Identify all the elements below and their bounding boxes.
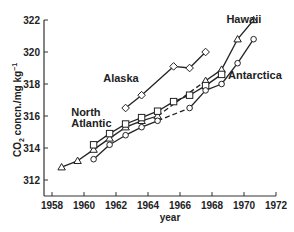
series-markers bbox=[58, 16, 257, 170]
x-tick-label: 1962 bbox=[105, 200, 128, 211]
square-marker bbox=[186, 92, 192, 98]
square-marker bbox=[218, 71, 224, 77]
square-marker bbox=[122, 121, 128, 127]
series-annotation: North bbox=[71, 106, 101, 118]
x-tick-label: 1970 bbox=[233, 200, 256, 211]
circle-marker bbox=[251, 36, 257, 42]
circle-marker bbox=[235, 60, 241, 66]
circle-marker bbox=[123, 132, 129, 138]
circle-marker bbox=[219, 81, 225, 87]
y-tick-label: 314 bbox=[23, 143, 40, 154]
co2-line-chart: 3123143163183203221958196019621964196619… bbox=[0, 0, 294, 232]
square-marker bbox=[138, 114, 144, 120]
square-marker bbox=[170, 98, 176, 104]
circle-marker bbox=[91, 156, 97, 162]
circle-marker bbox=[187, 105, 193, 111]
y-tick-label: 316 bbox=[23, 111, 40, 122]
series-line-antarctica bbox=[158, 108, 190, 121]
y-tick-label: 312 bbox=[23, 175, 40, 186]
series-line-alaska bbox=[190, 52, 206, 68]
series-annotation: Hawaii bbox=[226, 13, 261, 25]
x-tick-label: 1964 bbox=[137, 200, 160, 211]
series-annotation: Atlantic bbox=[71, 117, 111, 129]
series-line-antarctica bbox=[238, 39, 254, 63]
series-annotation: Antarctica bbox=[228, 69, 283, 81]
x-tick-label: 1958 bbox=[41, 200, 64, 211]
series-line-alaska bbox=[142, 66, 174, 95]
circle-marker bbox=[203, 88, 209, 94]
x-tick-label: 1960 bbox=[73, 200, 96, 211]
circle-marker bbox=[107, 142, 113, 148]
square-marker bbox=[90, 142, 96, 148]
triangle-marker bbox=[74, 157, 81, 163]
x-axis-label: year bbox=[160, 212, 181, 223]
x-tick-label: 1972 bbox=[265, 200, 288, 211]
x-tick-label: 1966 bbox=[169, 200, 192, 211]
y-tick-label: 320 bbox=[23, 47, 40, 58]
square-marker bbox=[106, 130, 112, 136]
circle-marker bbox=[155, 118, 161, 124]
square-marker bbox=[154, 108, 160, 114]
series-annotation: Alaska bbox=[103, 72, 139, 84]
x-tick-label: 1968 bbox=[201, 200, 224, 211]
y-tick-label: 318 bbox=[23, 79, 40, 90]
annotations: HawaiiAlaskaNorthAtlanticAntarctica bbox=[71, 13, 282, 129]
circle-marker bbox=[139, 124, 145, 130]
y-axis-label: CO2 concn./mg kg−1 bbox=[11, 63, 25, 157]
y-tick-label: 322 bbox=[23, 15, 40, 26]
